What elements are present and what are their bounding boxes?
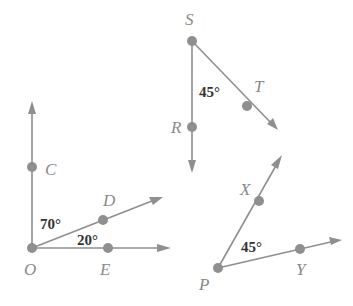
arrowhead-icon: [329, 237, 342, 245]
label-y: Y: [296, 260, 307, 279]
label-o: O: [24, 260, 36, 279]
angle-label-doE: 20°: [77, 232, 98, 248]
point-t: [242, 101, 252, 111]
arrowhead-icon: [149, 197, 163, 205]
angle-diagram: C D E O 70° 20° S R T 45° X Y P 45°: [0, 0, 353, 306]
point-c: [27, 162, 37, 172]
label-t: T: [254, 77, 265, 96]
point-s: [187, 36, 197, 46]
angle-label-coD: 70°: [40, 216, 61, 232]
label-x: X: [239, 180, 251, 199]
point-p: [213, 263, 223, 273]
arrowhead-icon: [271, 155, 282, 169]
label-r: R: [170, 118, 182, 137]
point-r: [187, 122, 197, 132]
angle-label-rsT: 45°: [199, 84, 220, 100]
point-d: [98, 215, 108, 225]
label-e: E: [99, 260, 111, 279]
ray-py: [218, 241, 335, 268]
label-s: S: [185, 10, 194, 29]
figure-angle-p: X Y P 45°: [198, 155, 342, 294]
point-y: [295, 244, 305, 254]
figure-angle-o: C D E O 70° 20°: [24, 101, 171, 279]
angle-label-xpY: 45°: [241, 239, 262, 255]
label-c: C: [45, 160, 57, 179]
point-e: [103, 243, 113, 253]
point-o: [27, 243, 37, 253]
arrowhead-icon: [28, 101, 36, 114]
label-d: D: [102, 191, 116, 210]
figure-angle-s: S R T 45°: [170, 10, 278, 173]
point-x: [254, 196, 264, 206]
arrowhead-icon: [157, 244, 171, 252]
arrowhead-icon: [188, 160, 196, 173]
label-p: P: [198, 275, 209, 294]
